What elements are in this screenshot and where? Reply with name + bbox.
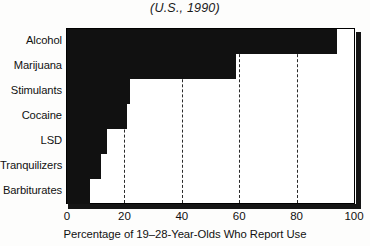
bar-cocaine: [67, 104, 127, 129]
bar-slot: [67, 79, 354, 104]
y-label-tranquilizers: Tranquilizers: [0, 159, 62, 171]
plot-area: [66, 28, 355, 204]
bar-slot: [67, 179, 354, 204]
x-tick-60: 60: [233, 210, 246, 222]
bar-slot: [67, 129, 354, 154]
x-tick-80: 80: [290, 210, 303, 222]
y-label-lsd: LSD: [0, 134, 62, 146]
plot-shadow-bottom: [68, 204, 361, 209]
bar-slot: [67, 154, 354, 179]
bar-barbiturates: [67, 179, 90, 204]
y-label-alcohol: Alcohol: [0, 34, 62, 46]
x-tick-40: 40: [175, 210, 188, 222]
bar-chart: (U.S., 1990) AlcoholMarijuanaStimulantsC…: [0, 0, 370, 246]
y-label-barbiturates: Barbiturates: [0, 184, 62, 196]
bar-slot: [67, 54, 354, 79]
y-label-stimulants: Stimulants: [0, 84, 62, 96]
x-axis-title: Percentage of 19–28-Year-Olds Who Report…: [0, 228, 370, 240]
x-axis-tick-labels: 020406080100: [0, 210, 370, 226]
bar-slot: [67, 104, 354, 129]
x-tick-100: 100: [344, 210, 363, 222]
plot-shadow-right: [356, 32, 361, 209]
bar-alcohol: [67, 29, 337, 54]
x-tick-20: 20: [118, 210, 131, 222]
y-label-marijuana: Marijuana: [0, 59, 62, 71]
chart-title: (U.S., 1990): [0, 1, 370, 15]
bar-marijuana: [67, 54, 236, 79]
y-axis-category-labels: AlcoholMarijuanaStimulantsCocaineLSDTran…: [0, 28, 62, 204]
bar-slot: [67, 29, 354, 54]
x-tick-0: 0: [64, 210, 70, 222]
bar-tranquilizers: [67, 154, 101, 179]
bar-lsd: [67, 129, 107, 154]
bars-group: [67, 29, 354, 203]
bar-stimulants: [67, 79, 130, 104]
y-label-cocaine: Cocaine: [0, 109, 62, 121]
